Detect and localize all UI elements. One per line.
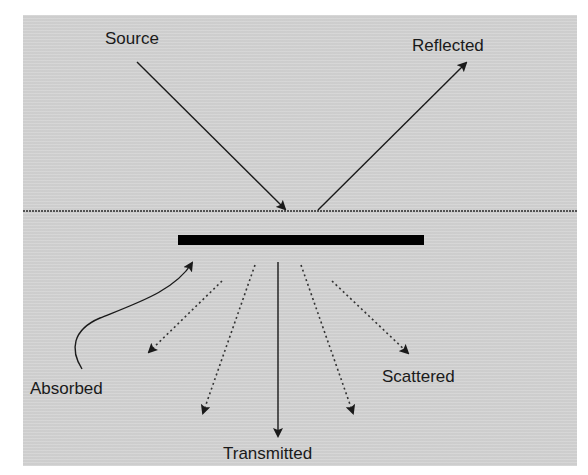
material-slab <box>178 235 424 245</box>
light-interaction-diagram <box>0 0 588 475</box>
scattered-label: Scattered <box>382 368 455 385</box>
absorbed-arrow <box>75 263 192 369</box>
reflected-arrow <box>318 63 466 210</box>
scattered-arrow-2 <box>203 265 255 413</box>
source-label: Source <box>105 30 159 47</box>
scattered-arrow-3 <box>301 265 353 413</box>
scattered-arrow-4 <box>332 281 408 353</box>
incident-arrow <box>137 62 285 209</box>
absorbed-label: Absorbed <box>30 380 103 397</box>
reflected-label: Reflected <box>412 37 484 54</box>
transmitted-label: Transmitted <box>223 445 312 462</box>
